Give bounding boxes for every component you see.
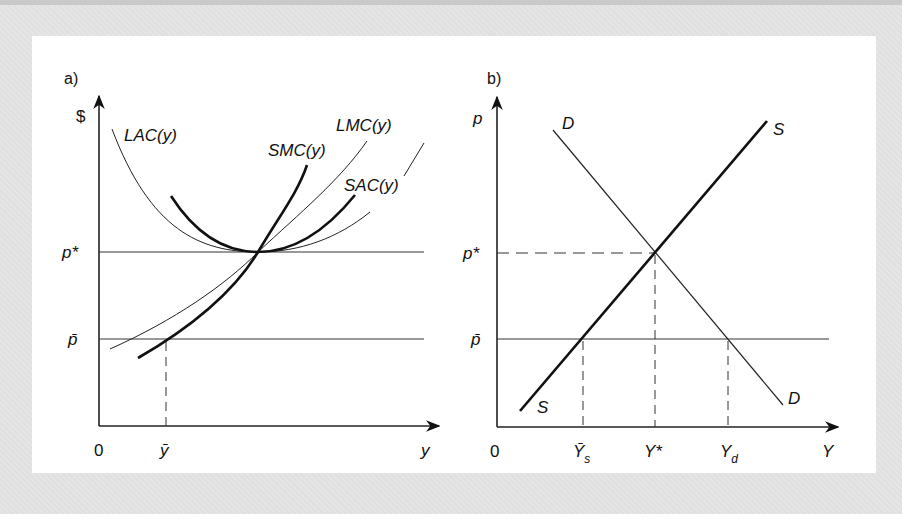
smc-curve xyxy=(138,165,307,358)
lac-curve-upper xyxy=(404,143,424,176)
supply-curve xyxy=(520,121,767,411)
chart-b: b) p 0 Y p* p̄ Ȳs Y* Yd D D S S xyxy=(462,70,838,466)
supply-label-top: S xyxy=(773,120,785,139)
origin-label-b: 0 xyxy=(490,442,499,461)
supply-label-bottom: S xyxy=(537,398,549,417)
p-star-label-b: p* xyxy=(462,244,480,263)
sac-label: SAC(y) xyxy=(344,176,399,195)
panel-b-label: b) xyxy=(487,70,501,87)
yd-sub: d xyxy=(731,452,738,466)
demand-curve xyxy=(553,130,783,405)
x-axis-label-b: Y xyxy=(822,442,835,461)
lmc-curve xyxy=(110,141,367,349)
p-star-label-a: p* xyxy=(61,243,79,262)
ys-label: Ȳs xyxy=(573,442,590,466)
yd-label: Yd xyxy=(720,442,738,466)
panel-a-label: a) xyxy=(64,70,78,87)
smc-label: SMC(y) xyxy=(268,141,326,160)
y-axis-label-b: p xyxy=(472,109,482,128)
lac-label: LAC(y) xyxy=(124,126,177,145)
y-axis-label-a: $ xyxy=(76,107,86,126)
lac-curve xyxy=(112,129,370,252)
lmc-label: LMC(y) xyxy=(336,116,392,135)
figure-svg: a) $ 0 y p* p̄ ȳ LAC(y) SAC(y) LMC(y) SM… xyxy=(0,0,923,524)
p-bar-label-b: p̄ xyxy=(470,330,480,349)
chart-a: a) $ 0 y p* p̄ ȳ LAC(y) SAC(y) LMC(y) SM… xyxy=(61,70,439,460)
x-axis-label-a: y xyxy=(420,441,431,460)
p-bar-label-a: p̄ xyxy=(67,330,77,349)
y-star-label: Y* xyxy=(644,442,663,461)
y-bar-label: ȳ xyxy=(159,441,170,460)
demand-label-bottom: D xyxy=(788,389,800,408)
demand-label-top: D xyxy=(562,114,574,133)
ys-sub: s xyxy=(584,452,590,466)
origin-label-a: 0 xyxy=(94,441,103,460)
